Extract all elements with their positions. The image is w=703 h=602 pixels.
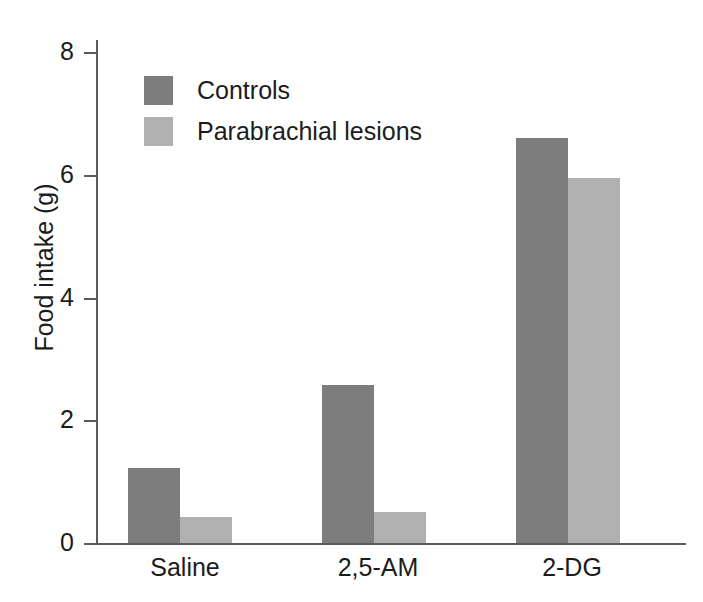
legend-entry-controls: Controls	[144, 74, 422, 107]
y-tick-label-4-wrap: 4	[0, 285, 74, 311]
bar-controls-2dg	[516, 138, 568, 543]
y-tick-label-0-wrap: 0	[0, 530, 74, 556]
y-tick-label-0: 0	[0, 530, 74, 555]
y-tick-label-8: 8	[0, 39, 74, 64]
legend-entry-lesions: Parabrachial lesions	[144, 115, 422, 148]
x-axis-line	[96, 543, 686, 545]
y-tick-0	[84, 543, 97, 545]
y-tick-6	[84, 175, 97, 177]
x-category-label-2dg: 2-DG	[482, 553, 662, 582]
y-tick-8	[84, 52, 97, 54]
bar-controls-saline	[128, 468, 180, 543]
bar-controls-25am	[322, 385, 374, 543]
legend-swatch-controls	[144, 76, 173, 105]
y-tick-label-2: 2	[0, 407, 74, 432]
y-tick-label-8-wrap: 8	[0, 39, 74, 65]
y-tick-4	[84, 298, 97, 300]
bar-lesions-saline	[180, 517, 232, 543]
bar-lesions-2dg	[568, 178, 620, 543]
legend-label-controls: Controls	[197, 76, 290, 105]
y-tick-label-4: 4	[0, 285, 74, 310]
y-tick-2	[84, 420, 97, 422]
y-tick-label-2-wrap: 2	[0, 407, 74, 433]
x-category-label-25am: 2,5-AM	[288, 553, 468, 582]
bar-lesions-25am	[374, 512, 426, 543]
bar-chart-figure: Food intake (g) 8 6 4 2 0 Saline 2,5-AM …	[0, 0, 703, 602]
legend-label-lesions: Parabrachial lesions	[197, 117, 422, 146]
y-tick-label-6-wrap: 6	[0, 162, 74, 188]
legend-swatch-lesions	[144, 117, 173, 146]
x-category-label-saline: Saline	[95, 553, 275, 582]
y-tick-label-6: 6	[0, 162, 74, 187]
legend: Controls Parabrachial lesions	[144, 74, 422, 156]
y-axis-line	[96, 40, 98, 545]
